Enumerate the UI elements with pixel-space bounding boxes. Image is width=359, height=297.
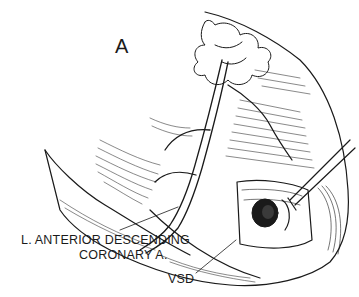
atrial-appendage [194, 20, 271, 84]
heart-illustration [0, 0, 359, 297]
panel-label: A [115, 35, 128, 58]
vsd-label: VSD [168, 272, 194, 286]
lateral-wall [318, 186, 341, 254]
lad-label-line1: L. ANTERIOR DESCENDING [21, 233, 190, 247]
lad-label-line2: CORONARY A. [79, 248, 168, 262]
figure-canvas: A L. ANTERIOR DESCENDING CORONARY A. VSD [0, 0, 359, 297]
vsd-opening [252, 199, 289, 230]
